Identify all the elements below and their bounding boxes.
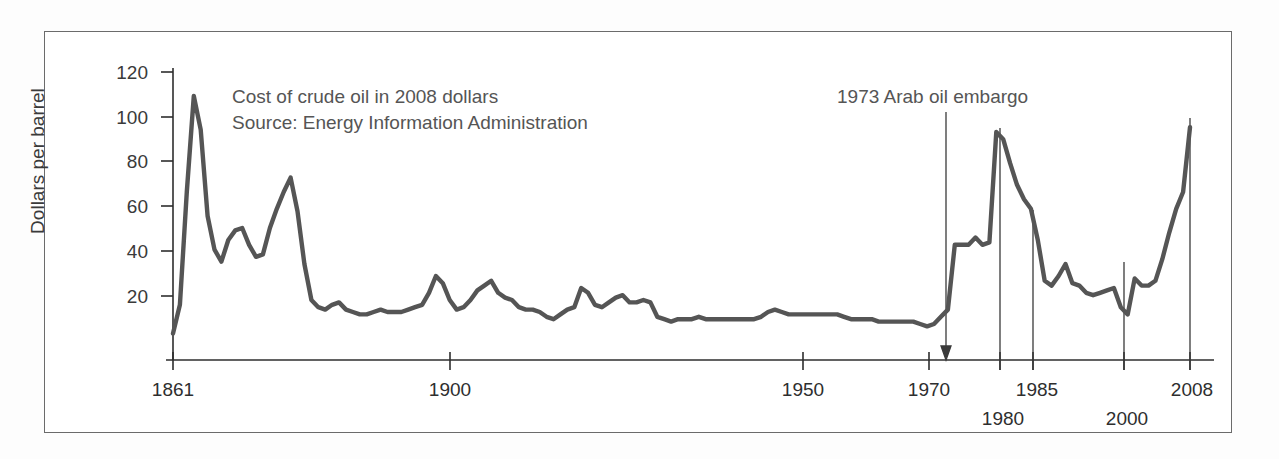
x-axis-ticks [173, 352, 1190, 370]
x-tick-label-1985: 1985 [1016, 379, 1058, 401]
y-axis-ticks [161, 72, 173, 296]
x-tick-label-1950: 1950 [782, 379, 824, 401]
y-tick-label-80: 80 [104, 152, 148, 171]
embargo-arrow [941, 112, 951, 360]
x-tick-label-1861: 1861 [152, 379, 194, 401]
x-tick-label-2008: 2008 [1171, 379, 1213, 401]
embargo-annotation-label: 1973 Arab oil embargo [837, 86, 1028, 108]
chart-source-note: Cost of crude oil in 2008 dollars Source… [232, 84, 588, 136]
y-tick-label-100: 100 [104, 108, 148, 127]
note-line-2: Source: Energy Information Administratio… [232, 110, 588, 136]
x-tick-label-1970: 1970 [908, 379, 950, 401]
x-tick-label-1980: 1980 [982, 408, 1024, 430]
y-tick-label-60: 60 [104, 197, 148, 216]
x-tick-label-1900: 1900 [429, 379, 471, 401]
note-line-1: Cost of crude oil in 2008 dollars [232, 84, 588, 110]
reference-lines [1000, 118, 1190, 370]
y-tick-label-20: 20 [104, 287, 148, 306]
x-tick-label-2000: 2000 [1106, 408, 1148, 430]
y-tick-label-40: 40 [104, 242, 148, 261]
y-axis-label: Dollars per barrel [27, 61, 49, 261]
y-tick-label-120: 120 [104, 63, 148, 82]
chart-figure: Dollars per barrel 120 100 80 60 40 20 1… [0, 0, 1279, 459]
